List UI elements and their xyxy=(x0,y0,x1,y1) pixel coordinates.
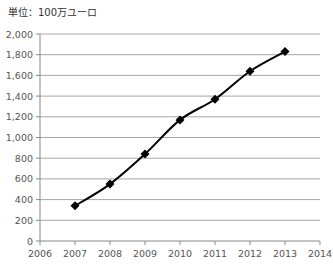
data-series xyxy=(71,47,290,210)
y-tick-label: 1,800 xyxy=(6,49,33,60)
gridlines xyxy=(40,34,320,220)
y-tick-label: 200 xyxy=(15,215,33,226)
x-tick-label: 2008 xyxy=(98,248,122,259)
diamond-marker xyxy=(71,201,80,210)
y-tick-label: 2,000 xyxy=(6,29,33,40)
line-chart: 02004006008001,0001,2001,4001,6001,8002,… xyxy=(0,0,333,267)
y-tick-label: 1,000 xyxy=(6,132,33,143)
y-tick-label: 0 xyxy=(27,236,33,247)
y-tick-label: 1,400 xyxy=(6,91,33,102)
x-tick-label: 2006 xyxy=(28,248,52,259)
x-tick-label: 2012 xyxy=(238,248,262,259)
x-axis-tick-labels: 200620072008200920102011201220132014 xyxy=(28,248,332,259)
y-tick-label: 1,600 xyxy=(6,70,33,81)
y-tick-label: 400 xyxy=(15,194,33,205)
x-tick-label: 2011 xyxy=(203,248,227,259)
y-tick-label: 600 xyxy=(15,173,33,184)
x-tick-label: 2014 xyxy=(308,248,332,259)
x-tick-label: 2007 xyxy=(63,248,87,259)
x-tick-label: 2013 xyxy=(273,248,297,259)
x-tick-label: 2009 xyxy=(133,248,157,259)
x-tick-label: 2010 xyxy=(168,248,192,259)
y-axis-tick-labels: 02004006008001,0001,2001,4001,6001,8002,… xyxy=(6,29,33,247)
y-tick-label: 1,200 xyxy=(6,111,33,122)
series-line xyxy=(75,52,285,206)
y-tick-label: 800 xyxy=(15,153,33,164)
axes xyxy=(36,34,320,245)
